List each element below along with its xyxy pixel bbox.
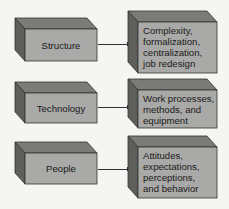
technology-box: Technology [15,82,98,123]
structure-box: Structure [15,18,98,61]
structure-label: Structure [25,29,97,61]
technology-arrow [98,107,129,108]
people-arrow [98,169,129,170]
structure-detail-label: Complexity, formalization, centralizatio… [143,25,217,69]
technology-label: Technology [25,93,97,123]
people-box: People [15,142,98,184]
people-detail-label: Attitudes, expectations, perceptions, an… [143,150,217,194]
structure-arrow [98,44,129,45]
people-label: People [25,153,97,184]
technology-detail-label: Work processes, methods, and equipment [143,93,217,126]
structure-detail-box: Complexity, formalization, centralizatio… [128,11,218,73]
technology-detail-box: Work processes, methods, and equipment [128,79,218,128]
people-detail-box: Attitudes, expectations, perceptions, an… [128,136,218,198]
